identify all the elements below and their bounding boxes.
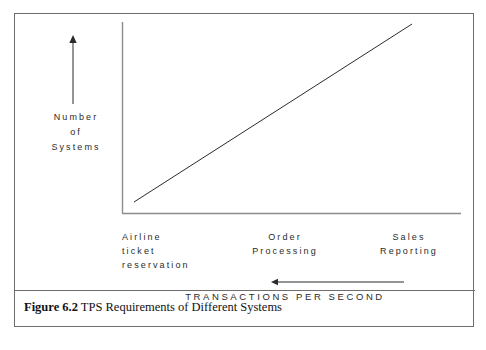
y-axis-direction-arrow bbox=[69, 35, 76, 104]
x-category-label-order-processing: Order Processing bbox=[220, 230, 350, 258]
figure-caption-number: Figure 6.2 bbox=[24, 300, 78, 314]
x-category-label-line: Order bbox=[220, 230, 350, 244]
figure-frame: Number of Systems Airline ticket reserva… bbox=[14, 13, 474, 327]
y-axis-title-line-1: Number bbox=[27, 110, 125, 125]
x-category-label-sales-reporting: Sales Reporting bbox=[350, 230, 468, 258]
figure-caption: Figure 6.2 TPS Requirements of Different… bbox=[24, 300, 466, 315]
chart-plot-area: Number of Systems Airline ticket reserva… bbox=[15, 14, 475, 290]
y-axis-title-line-3: Systems bbox=[27, 140, 125, 155]
y-axis-title: Number of Systems bbox=[27, 110, 125, 155]
x-category-label-line: reservation bbox=[122, 258, 252, 272]
data-series-line bbox=[134, 24, 412, 202]
x-category-label-line: Processing bbox=[220, 244, 350, 258]
y-axis-title-line-2: of bbox=[27, 125, 125, 140]
x-category-label-line: Reporting bbox=[350, 244, 468, 258]
figure-caption-text: TPS Requirements of Different Systems bbox=[78, 300, 282, 314]
transactions-direction-arrow-icon bbox=[270, 276, 406, 288]
x-category-label-line: Sales bbox=[350, 230, 468, 244]
caption-divider bbox=[15, 290, 475, 291]
